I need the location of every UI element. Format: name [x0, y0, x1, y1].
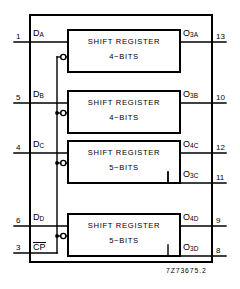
- clock-junction-dot-c: [55, 161, 59, 165]
- signal-label-da: DA: [33, 29, 44, 39]
- signal-label-dc: DC: [33, 140, 44, 150]
- pin-number-10: 10: [216, 94, 225, 102]
- signal-label-o3c: O3C: [183, 170, 198, 180]
- block-b-name: SHIFT REGISTER: [68, 99, 180, 107]
- clock-junction-dot-d: [55, 234, 59, 238]
- block-c-name: SHIFT REGISTER: [68, 149, 180, 157]
- signal-label-dd: DD: [33, 213, 44, 223]
- logic-block-diagram: 1 DA SHIFT REGISTER 4−BITS O3A 13 5 DB S…: [0, 0, 240, 289]
- clock-inverting-bubble-b: [61, 110, 66, 115]
- clock-inverting-bubble-a: [61, 54, 66, 59]
- diagram-caption: 7Z73675.2: [166, 268, 207, 275]
- block-a-name: SHIFT REGISTER: [68, 38, 180, 46]
- clock-inverting-bubble-c: [61, 160, 66, 165]
- pin-number-13: 13: [216, 33, 225, 41]
- pin-number-11: 11: [216, 174, 224, 182]
- block-c-size: 5−BITS: [68, 164, 180, 172]
- signal-label-o3b: O3B: [183, 90, 198, 100]
- pin-number-3: 3: [16, 244, 20, 252]
- block-d-size: 5−BITS: [68, 237, 180, 245]
- signal-label-o4c: O4C: [183, 140, 198, 150]
- block-b-size: 4−BITS: [68, 114, 180, 122]
- signal-label-o3d: O3D: [183, 243, 198, 253]
- block-d-name: SHIFT REGISTER: [68, 222, 180, 230]
- pin-number-9: 9: [216, 217, 220, 225]
- pin-number-5: 5: [16, 94, 20, 102]
- pin-number-1: 1: [16, 33, 20, 41]
- pin-number-6: 6: [16, 217, 20, 225]
- signal-label-db: DB: [33, 90, 44, 100]
- signal-label-o3a: O3A: [183, 29, 198, 39]
- block-a-size: 4−BITS: [68, 53, 180, 61]
- clock-inverting-bubble-d: [61, 233, 66, 238]
- pin-number-12: 12: [216, 144, 225, 152]
- pin-number-4: 4: [16, 144, 20, 152]
- cp-overbar-text: CP: [33, 242, 46, 252]
- pin-number-8: 8: [216, 247, 220, 255]
- clock-junction-dot-b: [55, 111, 59, 115]
- signal-label-o4d: O4D: [183, 213, 198, 223]
- signal-label-cp: CP: [33, 242, 46, 252]
